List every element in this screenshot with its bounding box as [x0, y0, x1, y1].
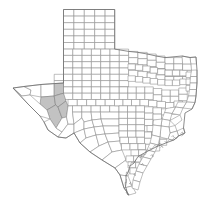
county-cell [91, 49, 100, 55]
county-cell [82, 68, 91, 74]
county-cell [190, 57, 197, 64]
county-cell [64, 49, 73, 55]
county-cell [143, 66, 150, 72]
county-cell [128, 112, 137, 118]
county-cell [162, 90, 171, 96]
county-cell [119, 55, 128, 61]
county-cell [122, 144, 131, 150]
county-cell [100, 106, 109, 112]
county-cell [132, 180, 140, 190]
county-cell [119, 93, 128, 99]
county-cell [73, 87, 82, 93]
county-cell [73, 74, 82, 80]
county-cell [82, 106, 91, 112]
county-cell [119, 74, 128, 80]
county-cell [64, 16, 74, 23]
county-cell [101, 49, 110, 55]
county-cell [145, 93, 154, 99]
county-cell [147, 60, 156, 66]
county-cell [73, 68, 82, 74]
county-cell [84, 29, 94, 36]
county-cell [105, 100, 114, 106]
county-cell [131, 150, 139, 156]
county-cell [110, 87, 119, 93]
county-cell [136, 93, 145, 99]
county-cell [190, 83, 198, 90]
county-cell [87, 100, 96, 106]
county-cell [136, 112, 145, 118]
county-cell [172, 70, 179, 76]
county-cell [64, 23, 74, 30]
county-cell [132, 100, 141, 106]
county-cell [153, 89, 162, 95]
county-cell [190, 77, 197, 84]
county-cell [73, 106, 82, 112]
county-cell [165, 70, 172, 76]
county-cell [82, 74, 91, 80]
county-cell [170, 115, 182, 126]
county-cell [74, 10, 84, 17]
county-cell [91, 106, 100, 112]
county-cell [128, 131, 137, 137]
county-cell [137, 137, 145, 143]
county-cell [101, 74, 110, 80]
county-cell [82, 93, 91, 99]
county-cell [91, 93, 100, 99]
county-cell [73, 55, 82, 61]
county-cell [95, 36, 105, 43]
county-cell [91, 68, 100, 74]
county-cell [110, 93, 119, 99]
county-cell [145, 119, 154, 125]
county-cell [110, 49, 119, 55]
county-cell [54, 74, 63, 80]
county-cell [119, 68, 128, 74]
county-cell [105, 16, 115, 23]
county-cell [110, 68, 119, 74]
county-cell [105, 29, 115, 36]
county-cell [95, 29, 105, 36]
county-cell [136, 125, 145, 131]
county-cell [145, 113, 154, 119]
county-cell [103, 126, 119, 134]
county-cell [174, 64, 183, 70]
texas-county-map [0, 0, 210, 200]
county-cell [101, 93, 110, 99]
county-cell [101, 81, 110, 87]
county-cell [170, 90, 179, 96]
county-cell [157, 102, 166, 108]
county-cell [136, 118, 145, 124]
county-cell [136, 131, 145, 137]
county-cell [84, 23, 94, 30]
county-cell [129, 58, 138, 64]
county-cell [77, 100, 86, 106]
county-cell [128, 106, 137, 112]
county-cell [91, 87, 100, 93]
county-cell [126, 156, 134, 162]
county-cell [150, 68, 157, 74]
county-cell [73, 49, 82, 55]
county-cell [189, 90, 197, 97]
county-cell [105, 23, 115, 30]
county-cell [84, 16, 94, 23]
county-cell [128, 93, 137, 99]
county-cell [74, 23, 84, 30]
county-cell [101, 87, 110, 93]
county-cell [145, 107, 154, 113]
county-cell [101, 119, 119, 126]
county-cell [119, 106, 128, 112]
county-cell [119, 131, 128, 137]
county-cell [110, 81, 119, 87]
county-cell [100, 112, 119, 119]
county-cell [136, 106, 145, 112]
county-cell [91, 55, 100, 61]
county-cell [74, 43, 84, 50]
county-cell [179, 94, 188, 100]
county-cell [101, 62, 110, 68]
county-cell [64, 68, 73, 74]
county-cell [82, 49, 91, 55]
county-cell [95, 43, 105, 50]
county-cell [64, 81, 73, 87]
county-cell [128, 125, 137, 131]
county-cell [74, 16, 84, 23]
county-cell [149, 101, 158, 107]
